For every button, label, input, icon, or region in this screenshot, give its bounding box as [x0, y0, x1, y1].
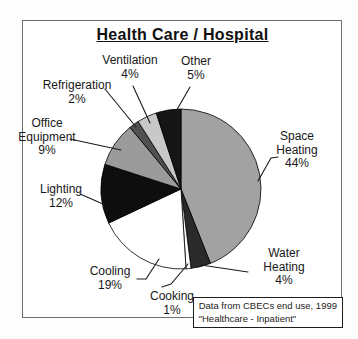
label-space-heating: Space Heating 44% — [262, 130, 332, 171]
label-line: Equipment — [5, 131, 89, 145]
source-note: Data from CBECs end use, 1999 "Healthcar… — [193, 297, 343, 328]
label-line: 12% — [26, 197, 96, 211]
label-line: 9% — [5, 144, 89, 158]
chart-canvas: Health Care / Hospital Ventilation 4% Ot… — [0, 0, 358, 339]
label-line: Office — [5, 117, 89, 131]
label-line: 2% — [29, 93, 125, 107]
label-line: 19% — [75, 279, 145, 293]
label-line: 4% — [249, 274, 319, 288]
label-ventilation: Ventilation 4% — [88, 54, 172, 81]
label-line: 5% — [164, 69, 228, 83]
label-lighting: Lighting 12% — [26, 183, 96, 210]
label-line: Water — [249, 247, 319, 261]
label-line: 44% — [262, 157, 332, 171]
label-line: Refrigeration — [29, 79, 125, 93]
label-office-equipment: Office Equipment 9% — [5, 117, 89, 158]
label-cooling: Cooling 19% — [75, 265, 145, 292]
label-line: Ventilation — [88, 54, 172, 68]
source-note-line: Data from CBECs end use, 1999 — [199, 300, 337, 313]
label-line: Heating — [262, 144, 332, 158]
leader-ventilation — [133, 86, 150, 123]
pie-slices — [101, 109, 261, 269]
label-refrigeration: Refrigeration 2% — [29, 79, 125, 106]
source-note-line: "Healthcare - Inpatient" — [199, 313, 337, 326]
label-line: Heating — [249, 261, 319, 275]
label-line: Cooling — [75, 265, 145, 279]
label-water-heating: Water Heating 4% — [249, 247, 319, 288]
label-line: Space — [262, 130, 332, 144]
label-line: Other — [164, 55, 228, 69]
label-line: Lighting — [26, 183, 96, 197]
label-other: Other 5% — [164, 55, 228, 82]
leader-water-heating — [201, 265, 248, 272]
